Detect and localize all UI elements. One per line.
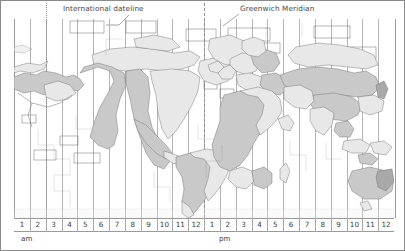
hour-label-15: 3 <box>236 219 252 231</box>
hour-label-16: 4 <box>252 219 268 231</box>
hour-label-19: 7 <box>299 219 315 231</box>
hour-label-12: 12 <box>188 219 204 231</box>
hour-label-23: 11 <box>362 219 378 231</box>
hour-label-13: 1 <box>204 219 220 231</box>
hour-label-17: 5 <box>267 219 283 231</box>
hour-label-9: 9 <box>141 219 157 231</box>
greenwich-meridian-label: Greenwich Meridian <box>240 4 314 13</box>
world-map-graphic <box>14 19 394 218</box>
pm-label: pm <box>219 234 231 243</box>
hour-label-21: 9 <box>331 219 347 231</box>
hour-label-8: 8 <box>125 219 141 231</box>
hour-label-2: 2 <box>30 219 46 231</box>
hour-label-11: 11 <box>172 219 188 231</box>
hour-label-6: 6 <box>93 219 109 231</box>
map-plot-area <box>14 19 394 218</box>
hour-label-20: 8 <box>315 219 331 231</box>
hour-label-5: 5 <box>77 219 93 231</box>
hour-label-24: 12 <box>378 219 394 231</box>
hour-label-18: 6 <box>283 219 299 231</box>
international-dateline-label: International dateline <box>63 4 144 13</box>
world-timezone-map-figure: International dateline Greenwich Meridia… <box>0 0 405 251</box>
hour-axis: 123456789101112123456789101112 <box>14 218 394 232</box>
hour-label-1: 1 <box>14 219 30 231</box>
hour-label-3: 3 <box>46 219 62 231</box>
am-label: am <box>21 234 32 243</box>
hour-label-4: 4 <box>62 219 78 231</box>
hour-label-10: 10 <box>157 219 173 231</box>
hour-label-22: 10 <box>347 219 363 231</box>
hour-label-14: 2 <box>220 219 236 231</box>
hour-label-7: 7 <box>109 219 125 231</box>
